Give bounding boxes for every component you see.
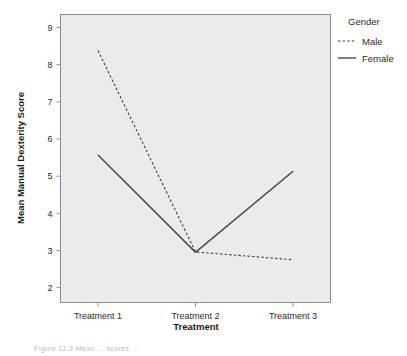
y-axis-title: Mean Manual Dexterity Score xyxy=(15,92,26,224)
legend-title: Gender xyxy=(348,16,380,27)
y-tick-label: 5 xyxy=(47,171,52,181)
x-tick-label: Treatment 1 xyxy=(74,311,122,321)
line-chart: 23456789 Treatment 1Treatment 2Treatment… xyxy=(0,0,407,356)
legend: Gender Male Female xyxy=(338,16,394,64)
y-tick-label: 6 xyxy=(47,134,52,144)
legend-label-female: Female xyxy=(362,53,394,64)
x-axis-tick-labels: Treatment 1Treatment 2Treatment 3 xyxy=(74,311,317,321)
legend-label-male: Male xyxy=(362,36,383,47)
legend-entry-female[interactable]: Female xyxy=(338,53,394,64)
figure-caption-fragment: Figure 11.3 Mean ... scores ... xyxy=(34,345,139,353)
y-axis-tick-labels: 23456789 xyxy=(47,23,52,293)
y-axis-ticks xyxy=(57,28,61,288)
y-tick-label: 4 xyxy=(47,209,52,219)
x-axis-ticks xyxy=(98,303,293,307)
y-tick-label: 7 xyxy=(47,97,52,107)
legend-entry-male[interactable]: Male xyxy=(338,36,383,47)
y-tick-label: 2 xyxy=(47,283,52,293)
x-axis-title: Treatment xyxy=(173,321,219,332)
figure-container: 23456789 Treatment 1Treatment 2Treatment… xyxy=(0,0,407,356)
y-tick-label: 9 xyxy=(47,23,52,33)
y-tick-label: 3 xyxy=(47,246,52,256)
y-tick-label: 8 xyxy=(47,60,52,70)
x-tick-label: Treatment 2 xyxy=(171,311,219,321)
x-tick-label: Treatment 3 xyxy=(269,311,317,321)
